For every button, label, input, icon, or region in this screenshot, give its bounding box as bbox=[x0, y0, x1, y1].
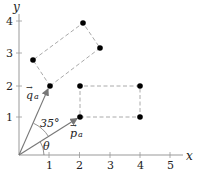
rotated-rectangle bbox=[33, 23, 100, 86]
q-vector-label: q bbox=[26, 89, 33, 102]
y-tick-label: 3 bbox=[6, 47, 13, 60]
x-tick-label: 2 bbox=[76, 159, 83, 172]
angle-35-label: 35° bbox=[40, 117, 60, 130]
point bbox=[77, 83, 83, 89]
point bbox=[137, 114, 143, 120]
point bbox=[80, 20, 86, 26]
theta-label: θ bbox=[43, 140, 50, 153]
y-tick-label: 4 bbox=[6, 15, 13, 28]
y-tick-label: 2 bbox=[6, 80, 13, 93]
q-subscript: a bbox=[34, 92, 39, 101]
point bbox=[137, 83, 143, 89]
x-axis-label: x bbox=[186, 149, 193, 163]
point bbox=[30, 57, 36, 63]
x-tick-label: 5 bbox=[167, 159, 174, 172]
x-tick-label: 4 bbox=[137, 159, 144, 172]
p-subscript: a bbox=[78, 130, 83, 139]
annotations: 35° θ → p a → q a bbox=[26, 83, 83, 153]
axis-aligned-rectangle bbox=[80, 86, 140, 117]
y-axis-label: y bbox=[12, 0, 20, 14]
x-tick-label: 3 bbox=[107, 159, 114, 172]
y-tick-label: 1 bbox=[6, 111, 13, 124]
point bbox=[47, 83, 53, 89]
point bbox=[97, 45, 103, 51]
point bbox=[77, 114, 83, 120]
coordinate-diagram: 1 2 3 4 5 1 2 3 4 x y 35 bbox=[0, 0, 198, 172]
p-vector-label: p bbox=[70, 127, 77, 140]
points bbox=[30, 20, 143, 120]
x-tick-label: 1 bbox=[46, 159, 53, 172]
